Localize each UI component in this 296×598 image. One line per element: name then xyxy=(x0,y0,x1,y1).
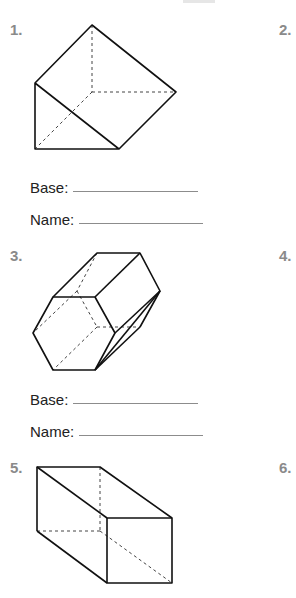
base-answer-line-3[interactable] xyxy=(73,402,198,404)
name-label-3: Name: xyxy=(30,424,74,439)
name-label-1: Name: xyxy=(30,212,74,227)
name-field-1: Name: xyxy=(30,212,203,227)
base-field-3: Base: xyxy=(30,392,198,407)
base-field-1: Base: xyxy=(30,180,198,195)
name-field-3: Name: xyxy=(30,424,203,439)
base-answer-line-1[interactable] xyxy=(73,190,198,192)
name-answer-line-3[interactable] xyxy=(79,434,203,436)
hexagonal-prism xyxy=(33,253,160,370)
base-label-3: Base: xyxy=(30,392,68,407)
rectangular-prism xyxy=(37,467,172,583)
triangular-prism xyxy=(35,25,176,149)
name-answer-line-1[interactable] xyxy=(79,222,203,224)
triangular-prism-figure xyxy=(0,0,296,598)
base-label-1: Base: xyxy=(30,180,68,195)
